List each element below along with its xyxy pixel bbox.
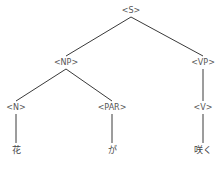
leaf-word-saku: 咲く <box>194 146 212 155</box>
node-par: <PAR> <box>98 104 127 112</box>
node-v: <V> <box>194 104 213 112</box>
edge-np-n <box>16 69 66 101</box>
edge-np-par <box>66 69 112 101</box>
node-vp: <VP> <box>191 59 215 67</box>
node-n: <N> <box>6 104 25 112</box>
node-s: <S> <box>122 7 140 15</box>
node-np: <NP> <box>54 59 78 67</box>
edge-s-np <box>66 17 131 56</box>
edge-s-vp <box>131 17 203 56</box>
leaf-word-hana: 花 <box>12 146 21 155</box>
leaf-word-ga: が <box>108 146 117 155</box>
